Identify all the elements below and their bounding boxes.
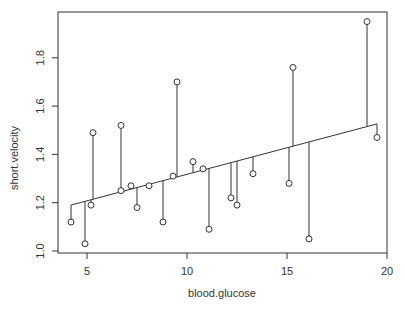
data-point (88, 202, 94, 208)
regression-line (71, 124, 377, 205)
x-axis-label: blood.glucose (188, 287, 256, 299)
data-point (374, 134, 380, 140)
y-axis-label: short.velocity (8, 125, 20, 190)
plot-frame (58, 12, 387, 253)
data-point (90, 130, 96, 136)
x-tick-label: 5 (84, 265, 90, 277)
data-point (228, 195, 234, 201)
residual-segments (71, 22, 377, 244)
data-point (68, 219, 74, 225)
data-point (160, 219, 166, 225)
data-point (128, 183, 134, 189)
y-tick-label: 1.6 (34, 98, 46, 113)
data-point (146, 183, 152, 189)
data-point (234, 202, 240, 208)
y-axis: 1.01.21.41.61.8 (34, 50, 58, 258)
y-tick-label: 1.8 (34, 50, 46, 65)
data-point (118, 122, 124, 128)
data-point (286, 180, 292, 186)
data-point (290, 64, 296, 70)
data-point (118, 188, 124, 194)
data-point (206, 226, 212, 232)
data-point (174, 79, 180, 85)
y-tick-label: 1.2 (34, 195, 46, 210)
data-point (170, 173, 176, 179)
x-tick-label: 10 (181, 265, 193, 277)
data-point (134, 205, 140, 211)
data-point (306, 236, 312, 242)
data-point (82, 241, 88, 247)
data-point (364, 19, 370, 25)
data-points (68, 19, 380, 247)
data-point (250, 171, 256, 177)
data-point (200, 166, 206, 172)
x-tick-label: 15 (281, 265, 293, 277)
x-axis: 5101520 (84, 253, 393, 277)
data-point (190, 159, 196, 165)
y-tick-label: 1.0 (34, 243, 46, 258)
y-tick-label: 1.4 (34, 147, 46, 162)
x-tick-label: 20 (381, 265, 393, 277)
plot-canvas: 5101520 1.01.21.41.61.8 blood.glucose sh… (0, 0, 404, 312)
scatter-plot: 5101520 1.01.21.41.61.8 blood.glucose sh… (0, 0, 404, 312)
